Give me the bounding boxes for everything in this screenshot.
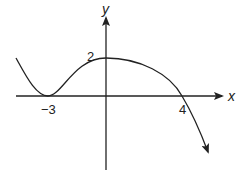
tick-label-neg3: −3 xyxy=(41,102,56,117)
tick-label-2: 2 xyxy=(87,49,94,64)
function-graph: y x −3 4 2 xyxy=(0,0,248,174)
x-axis-label: x xyxy=(227,88,236,104)
tick-label-4: 4 xyxy=(179,102,186,117)
y-axis-label: y xyxy=(101,1,110,17)
